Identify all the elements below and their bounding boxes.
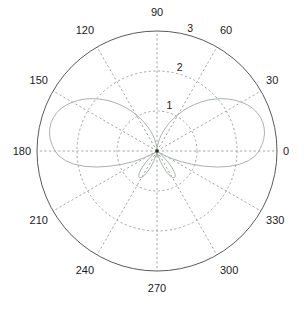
polar-plot-figure: 0306090120150180210240270300330 123 <box>0 0 307 312</box>
angular-label-90: 90 <box>151 6 163 18</box>
angular-label-0: 0 <box>283 145 289 157</box>
angular-label-150: 150 <box>30 74 48 86</box>
origin-marker <box>155 149 159 153</box>
angular-label-300: 300 <box>220 264 238 276</box>
angular-label-240: 240 <box>76 264 94 276</box>
angular-label-60: 60 <box>220 24 232 36</box>
angular-label-270: 270 <box>148 282 166 294</box>
polar-chart-canvas: 0306090120150180210240270300330 123 <box>0 0 307 312</box>
angular-label-210: 210 <box>30 214 48 226</box>
radial-label-2: 2 <box>177 61 183 73</box>
grid-spoke-330 <box>157 151 261 211</box>
radial-label-1: 1 <box>166 99 172 111</box>
grid-spoke-210 <box>53 151 157 211</box>
angular-label-30: 30 <box>266 74 278 86</box>
radial-label-3: 3 <box>187 22 193 34</box>
angular-label-330: 330 <box>266 214 284 226</box>
angular-label-180: 180 <box>13 145 31 157</box>
angular-label-120: 120 <box>76 24 94 36</box>
grid-spoke-120 <box>97 47 157 151</box>
